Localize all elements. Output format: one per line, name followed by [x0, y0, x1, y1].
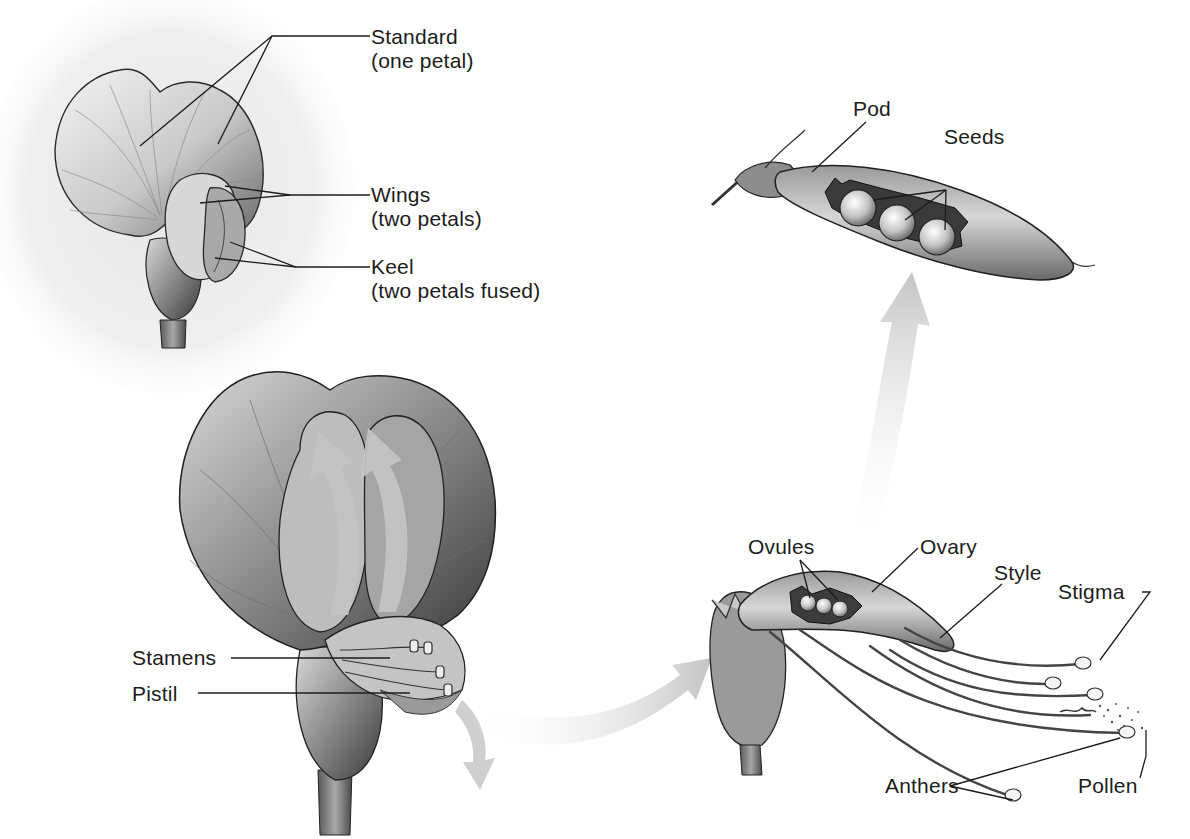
label-stamens: Stamens [132, 646, 216, 670]
label-standard-note: (one petal) [371, 49, 474, 73]
pod-illustration [712, 130, 1095, 280]
label-standard-title: Standard [371, 25, 474, 49]
label-pollen: Pollen [1078, 774, 1138, 798]
flower-open-illustration [180, 372, 496, 835]
flower-exterior-illustration [0, 0, 355, 395]
label-keel-note: (two petals fused) [371, 279, 540, 303]
label-style: Style [994, 561, 1042, 585]
label-ovary: Ovary [920, 535, 977, 559]
label-anthers: Anthers [885, 774, 959, 798]
label-wings: Wings (two petals) [371, 183, 482, 231]
label-ovules: Ovules [748, 535, 815, 559]
label-standard: Standard (one petal) [371, 25, 474, 73]
label-keel-title: Keel [371, 255, 540, 279]
label-wings-title: Wings [371, 183, 482, 207]
illustration-layer [0, 0, 1190, 839]
label-stigma: Stigma [1058, 580, 1125, 604]
label-wings-note: (two petals) [371, 207, 482, 231]
label-seeds: Seeds [944, 125, 1005, 149]
label-pod: Pod [853, 97, 891, 121]
flow-arrows [470, 272, 930, 745]
label-pistil: Pistil [132, 682, 178, 706]
pistil-detail-illustration [710, 571, 1143, 801]
label-keel: Keel (two petals fused) [371, 255, 540, 303]
pea-flower-diagram: Standard (one petal) Wings (two petals) … [0, 0, 1190, 839]
